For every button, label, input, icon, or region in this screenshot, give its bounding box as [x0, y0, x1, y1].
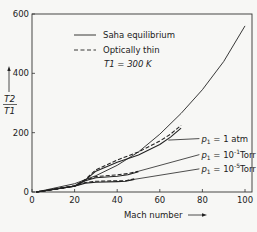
x-tick-label: 40: [112, 195, 123, 205]
annotation-leader: [126, 169, 200, 181]
x-tick-label: 0: [29, 195, 34, 205]
y-tick-label: 200: [13, 128, 29, 138]
y-tick-label: 600: [13, 9, 29, 19]
y-label-numerator: T2: [4, 94, 15, 104]
legend-label-saha: Saha equilibrium: [103, 30, 175, 40]
chart: 0204060801000200400600 p1 = 1 atmp1 = 10…: [0, 0, 257, 232]
legend-label-optically-thin: Optically thin: [103, 45, 160, 55]
x-tick-label: 100: [237, 195, 253, 205]
annotation-leader: [139, 155, 200, 172]
series-line-1: [36, 128, 181, 192]
y-tick-label: 0: [24, 187, 29, 197]
y-label-denominator: T1: [4, 106, 15, 116]
y-tick-label: 400: [13, 68, 29, 78]
annotation-leader: [168, 139, 199, 140]
x-tick-label: 60: [154, 195, 165, 205]
x-label-text: Mach number: [124, 210, 183, 220]
annotation-label: p1 = 1 atm: [200, 134, 248, 145]
y-label-arrowhead: [7, 66, 10, 71]
x-tick-label: 20: [69, 195, 80, 205]
x-tick-label: 80: [197, 195, 208, 205]
annotations: p1 = 1 atmp1 = 10-1Torrp1 = 10-5Torr: [126, 134, 257, 181]
legend: Saha equilibrium Optically thin T1 = 300…: [74, 30, 175, 69]
annotation-label: p1 = 10-1Torr: [200, 148, 256, 161]
x-axis-label: Mach number: [124, 210, 207, 220]
x-label-arrowhead: [202, 213, 207, 216]
legend-condition: T1 = 300 K: [104, 59, 153, 69]
annotation-label: p1 = 10-5Torr: [200, 162, 256, 175]
